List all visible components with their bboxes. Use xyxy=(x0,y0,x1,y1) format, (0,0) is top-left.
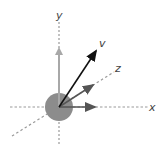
z-axis-label: z xyxy=(114,62,121,75)
y-axis-label: y xyxy=(55,9,63,22)
v-vector-label: v xyxy=(99,37,106,50)
v-vector-arrow xyxy=(59,51,96,107)
coordinate-axes-diagram: y v z x xyxy=(0,0,166,152)
x-axis-label: x xyxy=(148,101,156,114)
